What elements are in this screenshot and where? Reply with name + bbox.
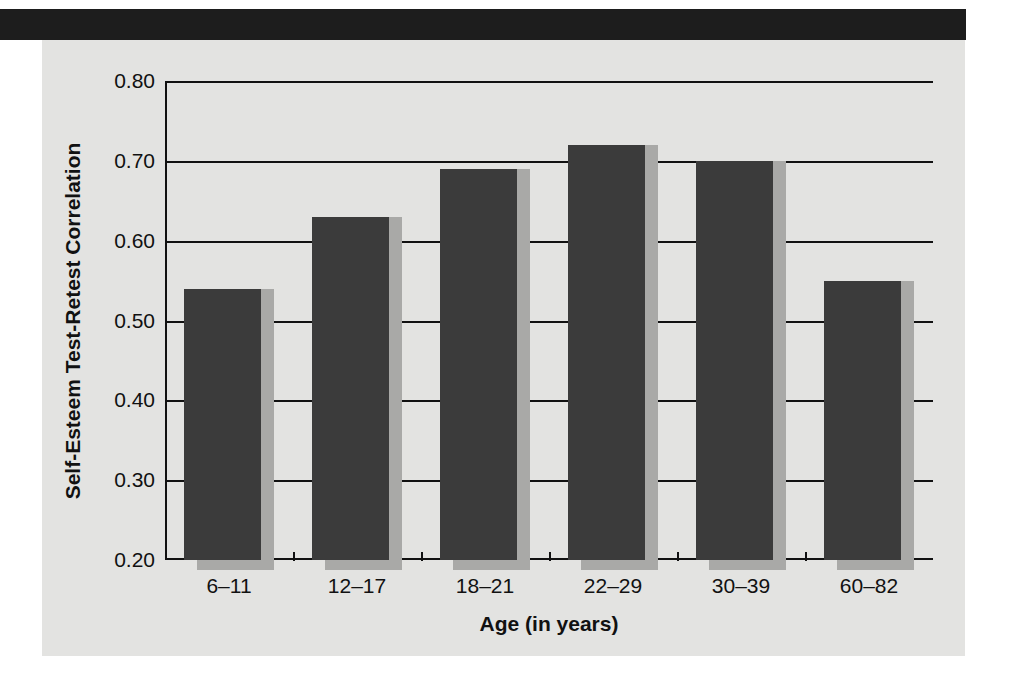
bar-slot [696,81,773,560]
bar[interactable] [568,145,645,560]
x-axis-tick-label: 12–17 [328,574,386,598]
x-axis-tick [421,552,423,561]
plot-wrapper: 0.800.700.600.500.400.300.20 [165,81,933,560]
bar-slot [312,81,389,560]
header-band [0,9,966,40]
x-axis-tick-label: 22–29 [584,574,642,598]
y-axis-title: Self-Esteem Test-Retest Correlation [58,81,88,560]
bar-slot [824,81,901,560]
bar[interactable] [312,217,389,560]
bar[interactable] [696,161,773,560]
bar-slot [184,81,261,560]
bar[interactable] [440,169,517,560]
y-axis-tick-label: 0.30 [87,468,155,492]
bar-slot [568,81,645,560]
y-axis-tick-label: 0.40 [87,388,155,412]
x-axis-tick [549,552,551,561]
y-axis-tick-label: 0.80 [87,69,155,93]
bar[interactable] [824,281,901,560]
x-axis-tick-label: 18–21 [456,574,514,598]
y-axis-title-label: Self-Esteem Test-Retest Correlation [61,142,85,499]
x-axis-tick [293,552,295,561]
x-axis-tick-label: 60–82 [840,574,898,598]
bar-series [165,81,933,560]
bar-slot [440,81,517,560]
bar[interactable] [184,289,261,560]
x-axis-title: Age (in years) [165,612,933,636]
y-axis-tick-label: 0.60 [87,229,155,253]
x-axis-tick [805,552,807,561]
y-axis-tick-label: 0.70 [87,149,155,173]
x-axis-tick [677,552,679,561]
y-axis-tick-label: 0.20 [87,548,155,572]
x-axis-tick-label: 30–39 [712,574,770,598]
x-axis-tick-label: 6–11 [206,574,251,598]
y-axis-tick-label: 0.50 [87,309,155,333]
